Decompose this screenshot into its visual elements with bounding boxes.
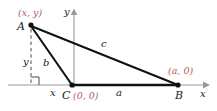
side-label-b: b	[43, 58, 49, 68]
y-axis	[71, 9, 78, 89]
drop-label-y: y	[23, 57, 29, 67]
side-label-a: a	[116, 88, 122, 98]
triangle-sides	[31, 26, 178, 85]
coord-label-c: (0, 0)	[73, 91, 99, 101]
drop-label-x: x	[50, 88, 56, 98]
coord-label-a: (x, y)	[18, 8, 42, 18]
vertex-label-c: C	[62, 90, 70, 101]
vertex-dot-a	[28, 22, 33, 27]
vertex-label-a: A	[17, 21, 25, 32]
vertex-dot-b	[175, 82, 180, 87]
right-angle-icon	[31, 77, 39, 85]
vertex-label-b: B	[175, 90, 183, 101]
x-axis-label: x	[200, 89, 206, 99]
coord-label-b: (a, 0)	[168, 66, 193, 76]
side-c-segment	[31, 26, 178, 85]
geometry-figure: x y (x, y) A (a, 0) B C (0, 0) a b c y x	[0, 0, 217, 111]
y-axis-label: y	[64, 7, 70, 17]
vertex-dot-c	[69, 82, 74, 87]
side-label-c: c	[101, 39, 107, 49]
